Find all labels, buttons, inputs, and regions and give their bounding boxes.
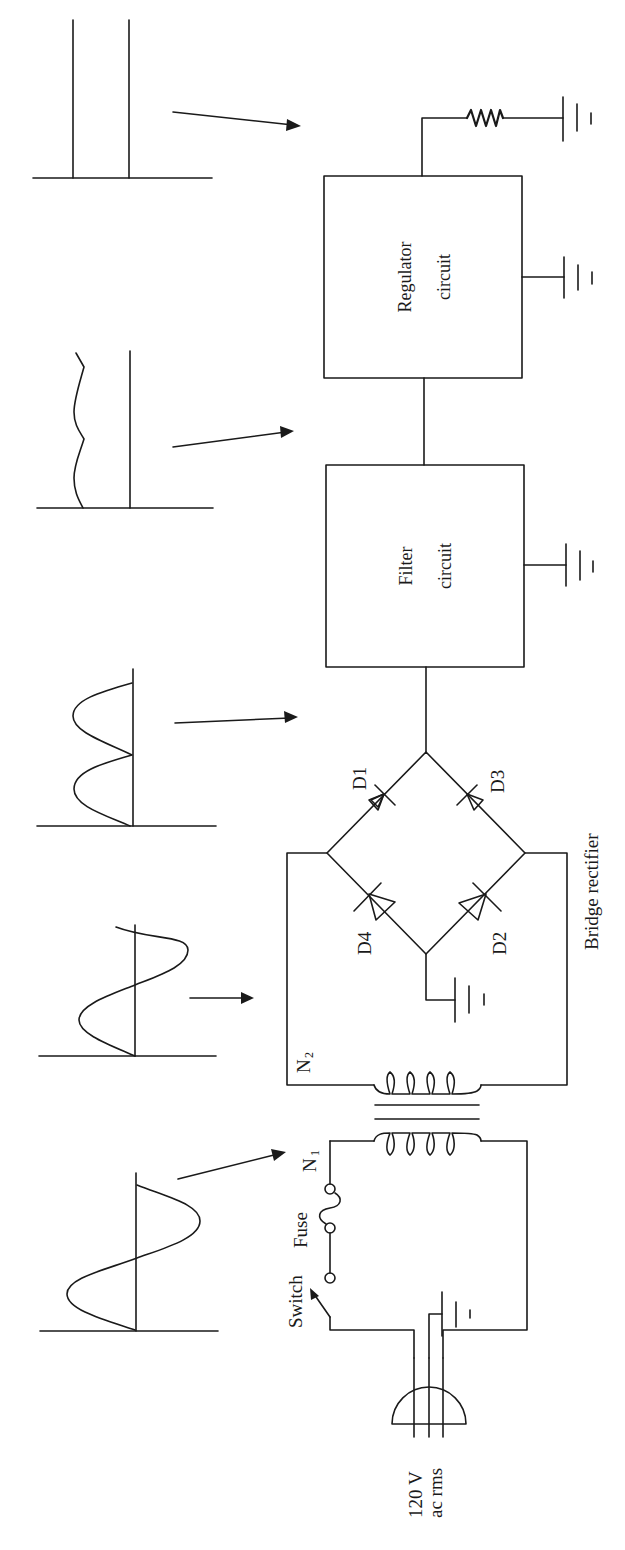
arrow-icon <box>173 426 294 447</box>
diode-label-d2: D2 <box>489 932 510 955</box>
bridge-rectifier-label: Bridge rectifier <box>581 833 602 950</box>
arrow-icon <box>178 1149 286 1179</box>
waveform-filter-output <box>37 351 213 508</box>
ground-icon <box>524 544 593 586</box>
diode-label-d1: D1 <box>349 767 370 790</box>
waveform-regulator-output <box>33 20 212 178</box>
output-wire <box>422 118 467 176</box>
diode-label-d3: D3 <box>487 770 508 793</box>
regulator-label-line2: circuit <box>434 254 454 300</box>
primary-turns-label: N 1 <box>299 1150 322 1172</box>
switch-icon <box>310 1233 335 1317</box>
filter-block: Filter circuit <box>326 465 524 667</box>
arrow-icon <box>173 112 301 131</box>
svg-text:1: 1 <box>308 1150 322 1156</box>
ground-icon <box>426 954 484 1022</box>
arrow-icon <box>175 711 298 723</box>
svg-text:N: N <box>293 1059 314 1073</box>
waveform-primary <box>40 1173 218 1331</box>
svg-text:2: 2 <box>302 1052 316 1058</box>
ground-icon <box>429 1292 470 1358</box>
filter-label-line1: Filter <box>396 546 416 585</box>
switch-label: Switch <box>285 1275 306 1328</box>
waveform-secondary <box>39 925 216 1056</box>
svg-text:N: N <box>299 1158 320 1172</box>
filter-label-line2: circuit <box>435 543 455 589</box>
regulator-block: Regulator circuit <box>324 176 522 378</box>
ground-icon <box>522 257 592 298</box>
power-supply-diagram: 120 V ac rms Switch Fuse N 1 <box>0 0 625 1550</box>
source-voltage-label: 120 V <box>405 1471 426 1518</box>
ac-plug-icon <box>392 1358 466 1437</box>
secondary-wire-right <box>481 853 567 1085</box>
transformer-icon <box>374 1072 481 1155</box>
ground-icon <box>563 97 591 141</box>
source-type-label: ac rms <box>425 1468 446 1518</box>
resistor-icon <box>467 110 563 126</box>
regulator-label-line1: Regulator <box>395 242 415 313</box>
diode-label-d4: D4 <box>354 931 375 955</box>
source-label: 120 V ac rms <box>405 1468 446 1518</box>
primary-wire-left <box>330 1317 414 1358</box>
fuse-label: Fuse <box>290 1212 311 1248</box>
fuse-icon <box>320 1141 374 1233</box>
secondary-turns-label: N 2 <box>293 1052 316 1073</box>
arrow-icon <box>190 992 254 1004</box>
waveform-rectifier-output <box>37 669 216 826</box>
